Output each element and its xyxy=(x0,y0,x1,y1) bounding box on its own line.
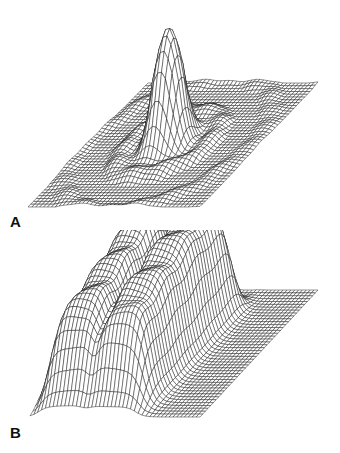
panel-b-surface-plot xyxy=(0,230,340,453)
panel-label-b: B xyxy=(10,425,21,440)
wireframe-mesh xyxy=(28,29,318,208)
panel-a-surface-plot xyxy=(0,0,340,230)
surface-plot-a xyxy=(0,0,340,230)
panel-label-a: A xyxy=(10,214,21,229)
surface-plot-b xyxy=(0,230,340,453)
wireframe-mesh xyxy=(30,230,318,417)
